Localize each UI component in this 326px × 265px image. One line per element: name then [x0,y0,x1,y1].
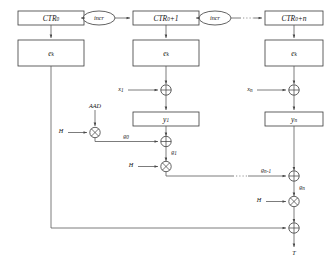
ghash-label-gn: gn [299,183,305,191]
plaintext-label-xn: xn [246,85,253,93]
incr-label-1: incr [94,14,105,21]
diagram-canvas: CTR0 CTR0+1 CTR0+n incr incr ek ek ek [0,0,326,265]
ghash-label-g0: g0 [123,132,129,140]
incr-label-2: incr [210,14,221,21]
hash-key-label-2: H [128,161,134,168]
hash-key-label-3: H [256,196,262,203]
ghash-label-gn1: gn-1 [261,166,271,174]
gcm-diagram: CTR0 CTR0+1 CTR0+n incr incr ek ek ek [0,0,326,265]
aad-label: AAD [88,102,102,109]
plaintext-label-x1: x1 [117,85,124,93]
counter-label-ctrn: CTR0+n [281,13,306,22]
counter-label-ctr1: CTR0+1 [153,13,178,22]
output-label-tag: T [292,249,296,256]
ghash-label-g1: g1 [171,148,177,156]
wire-multg1-down-right [166,172,233,176]
hash-key-label-1: H [58,127,64,134]
